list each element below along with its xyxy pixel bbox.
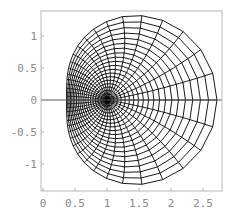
x-tick-label: 1	[104, 197, 111, 210]
y-tick-label: 0	[30, 94, 37, 107]
y-tick-label: -0.5	[11, 126, 38, 139]
y-tick-label: 0.5	[17, 62, 37, 75]
y-tick-label: -1	[24, 158, 37, 171]
y-tick-label: 1	[30, 30, 37, 43]
x-tick-label: 2	[168, 197, 175, 210]
parametric-plot: 00.511.522.5 10.50-0.5-1	[0, 0, 236, 218]
x-tick-label: 2.5	[193, 197, 213, 210]
x-tick-label: 1.5	[129, 197, 149, 210]
x-tick-label: 0	[40, 197, 47, 210]
y-axis-ticks: 10.50-0.5-1	[11, 30, 45, 171]
x-tick-label: 0.5	[65, 197, 85, 210]
